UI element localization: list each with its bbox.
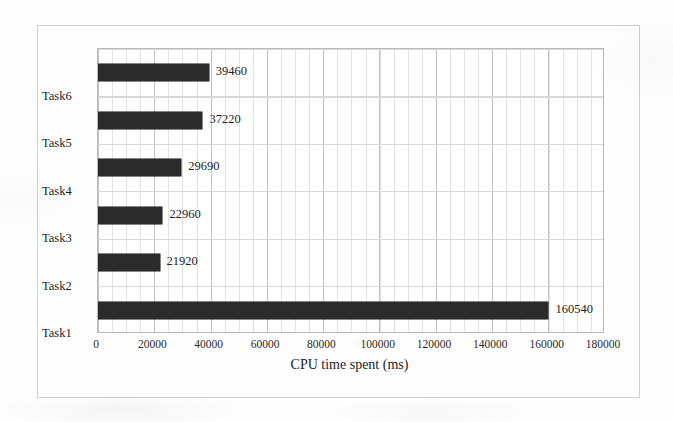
bar-value-task3: 22960 — [169, 205, 200, 223]
bar-value-task5: 37220 — [209, 110, 240, 128]
category-label-task1: Task1 — [42, 326, 94, 340]
x-tick-100000: 100000 — [360, 336, 395, 352]
x-tick-20000: 20000 — [138, 336, 167, 352]
category-label-task3: Task3 — [42, 231, 94, 245]
category-label-task2: Task2 — [42, 279, 94, 293]
bar-task2[interactable] — [98, 254, 160, 271]
bar-value-task6: 39460 — [216, 62, 247, 80]
category-label-task4: Task4 — [42, 184, 94, 198]
x-tick-160000: 160000 — [529, 336, 564, 352]
bar-band-task4: 29690 — [98, 144, 603, 192]
bar-band-task3: 22960 — [98, 192, 603, 240]
bar-value-task2: 21920 — [167, 252, 198, 270]
plot-area: 39460 37220 29690 22960 21920 — [97, 48, 604, 333]
scanned-page-background: Task6 Task5 Task4 Task3 Task2 Task1 3946… — [0, 0, 673, 422]
bar-value-task1: 160540 — [555, 300, 593, 318]
bar-task4[interactable] — [98, 159, 181, 176]
x-tick-140000: 140000 — [473, 336, 508, 352]
bar-task6[interactable] — [98, 64, 209, 81]
value-axis-title: CPU time spent (ms) — [96, 356, 603, 374]
bar-band-task2: 21920 — [98, 239, 603, 287]
category-axis: Task6 Task5 Task4 Task3 Task2 Task1 — [38, 73, 94, 358]
bar-task5[interactable] — [98, 112, 202, 129]
bar-band-task6: 39460 — [98, 49, 603, 97]
category-label-task5: Task5 — [42, 136, 94, 150]
x-tick-120000: 120000 — [417, 336, 452, 352]
x-tick-60000: 60000 — [251, 336, 280, 352]
bar-band-task5: 37220 — [98, 97, 603, 145]
value-axis-ticks: 0 20000 40000 60000 80000 100000 120000 … — [96, 336, 603, 354]
category-label-task6: Task6 — [42, 89, 94, 103]
bar-value-task4: 29690 — [188, 157, 219, 175]
x-tick-0: 0 — [93, 336, 99, 352]
bar-band-task1: 160540 — [98, 287, 603, 334]
bar-task1[interactable] — [98, 302, 548, 319]
bar-task3[interactable] — [98, 207, 162, 224]
x-tick-40000: 40000 — [194, 336, 223, 352]
x-tick-180000: 180000 — [586, 336, 621, 352]
x-tick-80000: 80000 — [307, 336, 336, 352]
